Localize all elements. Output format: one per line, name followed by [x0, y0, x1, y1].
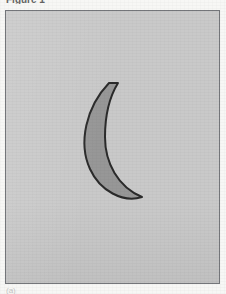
- crescent-shape-svg: [6, 11, 219, 283]
- crescent-icon: [84, 83, 142, 199]
- figure-caption-bottom-text: (a): [6, 286, 126, 294]
- figure-caption-bottom: (a): [6, 286, 126, 294]
- scanned-page: Figure 1 (a): [0, 0, 226, 294]
- figure-caption-top: Figure 1: [6, 0, 126, 4]
- figure-panel: [5, 10, 220, 284]
- figure-caption-top-text: Figure 1: [6, 0, 126, 4]
